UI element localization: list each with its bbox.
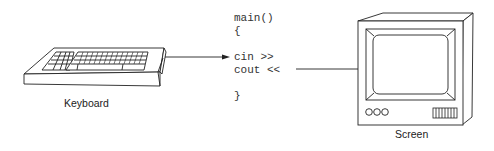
code-line-cout: cout << [234,65,280,76]
monitor-icon [358,13,473,125]
code-line-close-brace: } [234,91,241,102]
code-line-open-brace: { [234,26,241,37]
code-line-main: main() [234,13,274,24]
code-line-cin: cin >> [234,52,274,63]
arrow-keyboard-to-cin [165,55,230,60]
keyboard-icon [24,48,166,86]
screen-label: Screen [395,128,428,140]
io-diagram: main() { cin >> cout << } Keyboard Scree… [0,0,494,151]
keyboard-label: Keyboard [64,97,109,109]
